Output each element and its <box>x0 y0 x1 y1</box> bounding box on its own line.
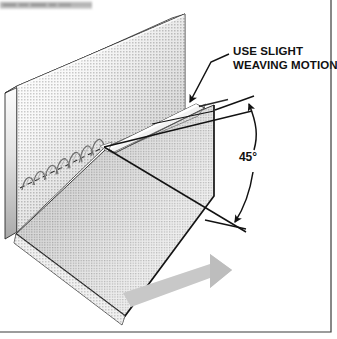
welding-technique-figure: 45° USE SLIGHT WEAVING MOTION <box>0 0 337 339</box>
cropped-caption-strip <box>0 2 92 10</box>
weaving-label-line-2: WEAVING MOTION <box>233 59 337 71</box>
weaving-label-line-1: USE SLIGHT <box>233 45 303 57</box>
illustration-canvas: 45° USE SLIGHT WEAVING MOTION <box>0 0 337 339</box>
vertical-plate-thickness <box>5 86 17 239</box>
angle-label: 45° <box>239 150 257 164</box>
